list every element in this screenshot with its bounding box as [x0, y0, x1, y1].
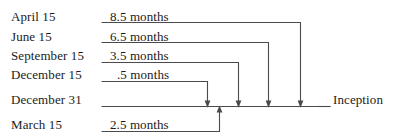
- inception-label: Inception: [333, 92, 383, 108]
- leader-line-row-4: [102, 82, 208, 107]
- row-date-december-31: December 31: [11, 92, 82, 108]
- row-date-june-15: June 15: [11, 29, 52, 45]
- row-date-april-15: April 15: [11, 9, 56, 25]
- row-duration-december-15: .5 months: [117, 67, 169, 83]
- timeline-diagram: April 15 8.5 months June 15 6.5 months S…: [0, 0, 402, 139]
- row-date-september-15: September 15: [11, 48, 84, 64]
- row-duration-june-15: 6.5 months: [110, 29, 169, 45]
- row-duration-march-15: 2.5 months: [110, 117, 169, 133]
- row-date-december-15: December 15: [11, 67, 82, 83]
- row-duration-september-15: 3.5 months: [110, 48, 169, 64]
- row-duration-april-15: 8.5 months: [110, 9, 169, 25]
- row-date-march-15: March 15: [11, 117, 62, 133]
